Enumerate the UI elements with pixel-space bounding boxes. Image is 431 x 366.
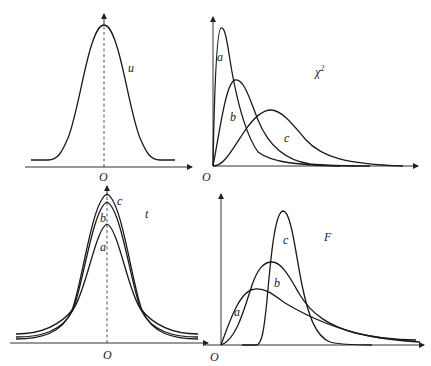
panel-chi-square: a b c χ2 O [202, 17, 418, 184]
panel-f: c b a F O [205, 194, 424, 364]
distribution-diagrams: u O a b c χ2 O c b a t O c b a [0, 0, 431, 366]
curve-label-c: c [284, 131, 290, 145]
curve-label-b: b [274, 276, 280, 290]
curve-label-a: a [100, 240, 106, 254]
panel-normal: u O [25, 14, 192, 184]
origin-label: O [103, 348, 112, 362]
origin-label: O [210, 350, 219, 364]
panel-label-chi-square: χ2 [314, 64, 324, 79]
origin-label: O [202, 170, 211, 184]
panel-label-u: u [128, 61, 134, 75]
panel-label-t: t [145, 207, 149, 221]
curve-label-a: a [234, 305, 240, 319]
chi-curve-a [213, 28, 340, 166]
f-curve-c [242, 211, 372, 345]
origin-label: O [99, 170, 108, 184]
curve-label-a: a [217, 50, 223, 64]
panel-t: c b a t O [10, 186, 208, 362]
chi-curve-c [213, 110, 403, 166]
curve-label-b: b [230, 110, 236, 124]
curve-label-b: b [100, 211, 106, 225]
normal-curve [31, 25, 175, 160]
panel-label-f: F [323, 230, 332, 244]
curve-label-c: c [283, 233, 289, 247]
curve-label-c: c [117, 194, 123, 208]
t-curve-a [16, 224, 198, 334]
